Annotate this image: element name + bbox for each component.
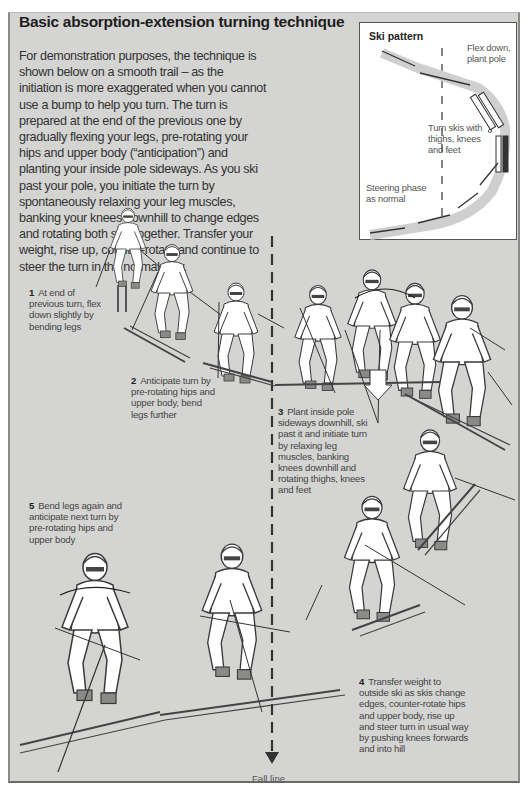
- fall-line-label: Fall line: [252, 773, 285, 784]
- fall-line-arrow-icon: [265, 752, 279, 764]
- step-1-caption: 1At end of previous turn, flex down slig…: [29, 287, 101, 332]
- step-2-caption: 2Anticipate turn by pre-rotating hips an…: [131, 375, 221, 420]
- step-5-caption: 5Bend legs again and anticipate next tur…: [29, 500, 125, 545]
- step-5-number: 5: [29, 500, 34, 511]
- skier-figure-6: [390, 283, 441, 398]
- skier-figure-8: [404, 430, 457, 550]
- skier-figure-10: [202, 544, 261, 679]
- step-2-number: 2: [131, 375, 136, 386]
- skier-figure-2: [151, 245, 193, 340]
- skier-figure-7: [433, 296, 490, 426]
- ski-pattern-label-steering: Steering phase as normal: [366, 182, 436, 204]
- step-3-number: 3: [278, 406, 283, 417]
- ski-pattern-label-turn: Turn skis with thighs, knees and feet: [428, 122, 486, 155]
- step-3-caption: 3Plant inside pole sideways downhill, sk…: [278, 406, 370, 496]
- skier-figure-5: [348, 270, 396, 380]
- ski-pattern-label-flex: Flex down, plant pole: [467, 42, 515, 64]
- step-4-caption: 4Transfer weight to outside ski as skis …: [359, 676, 469, 754]
- ski-pattern-inset: Ski pattern Flex down, plant pole Turn s…: [359, 22, 517, 240]
- skier-figure-4: [295, 285, 341, 390]
- step-1-number: 1: [29, 287, 34, 298]
- skier-figure-1: [110, 208, 145, 288]
- skier-figure-11: [62, 554, 128, 704]
- step-4-number: 4: [359, 676, 364, 687]
- skier-figure-9: [345, 496, 400, 621]
